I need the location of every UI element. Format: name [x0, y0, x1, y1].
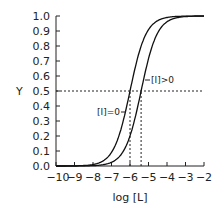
curve-label-i-positive: [I]>0 [145, 75, 174, 85]
x-tick-label: −8 [85, 171, 101, 184]
label-i-zero: [I]=0 [97, 107, 120, 117]
y-tick-label: 0.8 [33, 40, 51, 53]
x-tick-label: −9 [66, 171, 82, 184]
label-i-positive: [I]>0 [151, 75, 174, 85]
y-axis-label: Y [15, 85, 23, 98]
dose-response-chart: 0.00.10.20.30.40.50.60.70.80.91.0 −10−9−… [0, 0, 224, 220]
y-tick-label: 1.0 [33, 10, 51, 23]
y-tick-label: 0.1 [33, 145, 51, 158]
y-tick-label: 0.6 [33, 70, 51, 83]
y-tick-label: 0.9 [33, 25, 51, 38]
x-tick-label: −2 [196, 171, 212, 184]
y-tick-label: 0.5 [33, 85, 51, 98]
y-tick-label: 0.4 [33, 100, 51, 113]
y-tick-label: 0.7 [33, 55, 51, 68]
x-tick-label: −3 [177, 171, 193, 184]
x-tick-label: −4 [159, 171, 175, 184]
curve-label-i-zero: [I]=0 [97, 107, 126, 117]
x-axis-label: log [L] [113, 191, 148, 204]
reference-lines [56, 91, 204, 166]
x-tick-label: −5 [140, 171, 156, 184]
x-tick-label: −7 [103, 171, 119, 184]
y-tick-label: 0.2 [33, 130, 51, 143]
x-tick-label: −6 [122, 171, 138, 184]
y-tick-label: 0.3 [33, 115, 51, 128]
